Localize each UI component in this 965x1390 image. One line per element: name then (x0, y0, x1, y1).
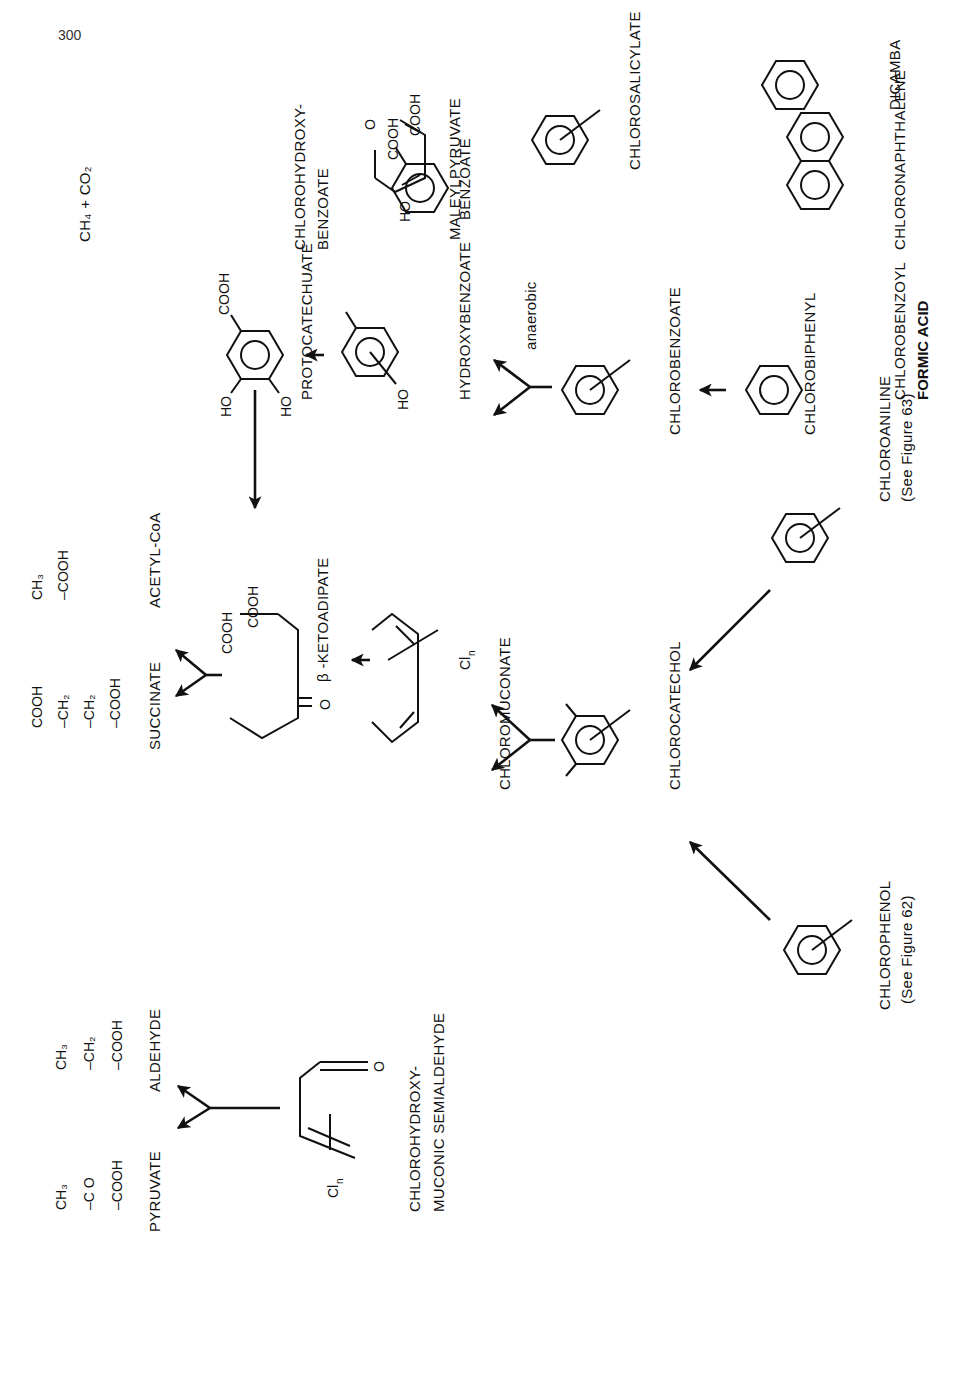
methane-co2-label: CH₄ + CO₂ (76, 166, 93, 242)
svg-text:COOH: COOH (29, 686, 45, 728)
aldehyde-label: ALDEHYDE (146, 1009, 163, 1092)
svg-text:CH₃: CH₃ (53, 1184, 69, 1210)
pyruvate-formula: CH₃ –C O –COOH (53, 1160, 125, 1210)
chlorohydroxybenzoate-label-1: CHLOROHYDROXY- (291, 104, 308, 250)
svg-text:–COOH: –COOH (109, 1020, 125, 1070)
svg-text:–CH₂: –CH₂ (81, 695, 97, 728)
fork-arrow-chlorobenzoate (494, 360, 552, 415)
chlorophenol-label: CHLOROPHENOL (876, 881, 893, 1010)
pyruvate-label: PYRUVATE (146, 1151, 163, 1232)
svg-text:CH₃: CH₃ (53, 1044, 69, 1070)
svg-text:CH₃: CH₃ (29, 574, 45, 600)
svg-text:–COOH: –COOH (55, 550, 71, 600)
svg-text:Cl: Cl (325, 1185, 341, 1198)
semialdehyde-label-1: CHLOROHYDROXY- (406, 1066, 423, 1212)
ketoadipate-label: β -KETOADIPATE (314, 557, 331, 682)
chloroaniline-note: (See Figure 63) (898, 393, 915, 502)
semialdehyde-structure: O Cln (300, 1061, 387, 1198)
pathway-diagram: 300 CH₃ –C O –COOH PYRUVATE CH₃ –CH₂ –CO… (0, 0, 965, 1390)
svg-text:HO: HO (218, 396, 234, 417)
chloronaphthalene-structure (787, 113, 843, 209)
aldehyde-formula: CH₃ –CH₂ –COOH (53, 1020, 125, 1070)
hydroxybenzoate-label: HYDROXYBENZOATE (456, 242, 473, 400)
svg-text:COOH: COOH (216, 273, 232, 315)
svg-text:COOH: COOH (219, 612, 235, 654)
svg-text:COOH: COOH (407, 94, 423, 136)
chlorobiphenyl-label: CHLOROBIPHENYL (801, 292, 818, 435)
arrow-chloroaniline-to-chlorocatechol (690, 590, 770, 670)
chlorobenzoate-structure (562, 360, 630, 414)
arrow-chlorophenol-to-chlorocatechol (690, 842, 770, 920)
chlorohydroxybenzoate-label-2: BENZOATE (314, 168, 331, 250)
page-number: 300 (58, 27, 82, 43)
fork-arrow-ketoadipate (176, 650, 222, 696)
maleylpyruvate-structure: HO O COOH COOH (362, 94, 425, 222)
chlorobenzoate-label: CHLOROBENZOATE (666, 287, 683, 435)
svg-text:O: O (362, 119, 378, 130)
chlorobiphenyl-structure (746, 366, 802, 414)
chlorocatechol-label: CHLOROCATECHOL (666, 641, 683, 790)
svg-text:–COOH: –COOH (107, 678, 123, 728)
fork-arrow-semialdehyde (178, 1086, 280, 1128)
muconate-structure: Cln (372, 614, 477, 742)
svg-text:n: n (466, 650, 477, 656)
svg-text:COOH: COOH (245, 586, 261, 628)
acetyl-coa-formula: CH₃ –COOH (29, 550, 71, 600)
svg-text:n: n (334, 1178, 345, 1184)
chlorosalicylate-structure (532, 110, 600, 164)
svg-text:–CH₂: –CH₂ (81, 1037, 97, 1070)
protocatechuate-label: PROTOCATECHUATE (298, 243, 315, 400)
svg-text:–COOH: –COOH (109, 1160, 125, 1210)
chlorobenzoyl-label-1: CHLOROBENZOYL (891, 262, 908, 400)
svg-text:O: O (371, 1061, 387, 1072)
svg-text:–C O: –C O (81, 1177, 97, 1210)
chlorosalicylate-label: CHLOROSALICYLATE (626, 11, 643, 170)
acetyl-coa-label: ACETYL-CoA (146, 512, 163, 608)
svg-text:–CH₂: –CH₂ (55, 695, 71, 728)
svg-text:Cl: Cl (457, 657, 473, 670)
chlorocatechol-structure (562, 704, 630, 776)
succinate-label: SUCCINATE (146, 662, 163, 750)
dicamba-label: DICAMBA (886, 40, 903, 110)
hydroxybenzoate-structure: HO (342, 312, 411, 410)
benzoate-label: BENZOATE (456, 138, 473, 220)
chlorobenzoyl-label-2: FORMIC ACID (914, 300, 931, 400)
semialdehyde-label-2: MUCONIC SEMIALDEHYDE (430, 1013, 447, 1212)
svg-text:HO: HO (395, 389, 411, 410)
svg-text:O: O (317, 699, 333, 710)
anaerobic-label: anaerobic (522, 281, 539, 350)
svg-text:HO: HO (278, 396, 294, 417)
dicamba-structure (762, 61, 818, 109)
chloroaniline-structure (772, 508, 840, 562)
chlorophenol-note: (See Figure 62) (898, 895, 915, 1004)
chlorophenol-structure (784, 920, 852, 974)
succinate-formula: COOH –CH₂ –CH₂ –COOH (29, 678, 123, 728)
muconate-label: CHLOROMUCONATE (496, 637, 513, 790)
